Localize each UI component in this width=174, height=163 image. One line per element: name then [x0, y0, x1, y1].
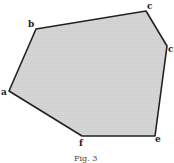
figure-caption: Fig. 3 [74, 154, 97, 163]
vertex-label-b: b [28, 19, 34, 29]
polygon-diagram: a b c c e f Fig. 3 [0, 0, 174, 163]
figure: a b c c e f Fig. 3 [0, 0, 174, 163]
vertex-label-c: c [147, 1, 153, 11]
vertex-label-f: f [79, 138, 84, 148]
vertex-label-a: a [1, 87, 7, 97]
vertex-label-d: c [168, 44, 174, 54]
vertex-label-e: e [155, 134, 161, 144]
hexagon-shape [9, 11, 167, 136]
